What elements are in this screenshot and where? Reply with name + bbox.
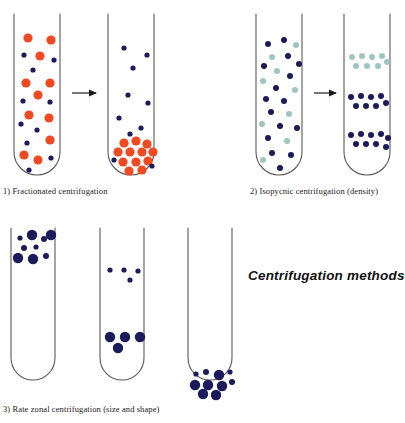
caption-panel-3: 3) Rate zonal centrifugation (size and s… [3, 404, 160, 414]
panel-3-rate-zonal [11, 228, 235, 400]
panel-2-isopycnic [256, 14, 391, 175]
tube-2b-after [344, 14, 391, 175]
caption-panel-1: 1) Fractionated centrifugation [3, 186, 108, 196]
panel-1-fractionated [14, 14, 158, 176]
tube-3c-t2 [188, 228, 235, 400]
tube-2a-before [256, 14, 302, 175]
tube-1a-before [14, 14, 60, 175]
tube-1b-after [108, 14, 158, 176]
tube-3a-t0 [11, 228, 56, 380]
diagram-title: Centrifugation methods [248, 268, 405, 283]
tube-3b-t1 [100, 228, 145, 380]
caption-panel-2: 2) Isopycnic centrifugation (density) [250, 186, 378, 196]
